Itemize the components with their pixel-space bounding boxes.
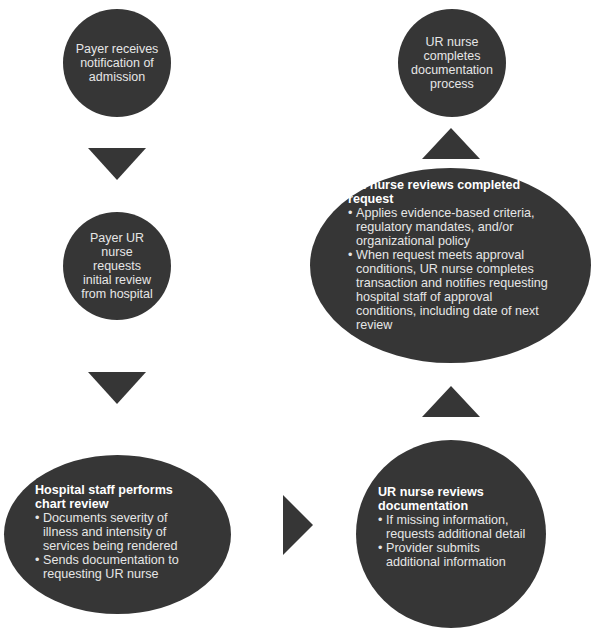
node-payer-ur-nurse-requests-review: Payer UR nurse requests initial review f… bbox=[63, 212, 171, 320]
text-line: admission bbox=[76, 70, 159, 84]
node-ur-nurse-reviews-documentation: UR nurse reviews documentation If missin… bbox=[356, 440, 546, 628]
text-line: from hospital bbox=[81, 287, 153, 301]
bullet-item: Documents severity of illness and intens… bbox=[35, 511, 200, 553]
bullet-item: Applies evidence-based criteria, regulat… bbox=[348, 206, 553, 248]
arrow-right-icon bbox=[283, 495, 313, 555]
node-title: Hospital staff performs chart review bbox=[35, 483, 200, 511]
text-line: Payer receives bbox=[76, 42, 159, 56]
text-line: nurse bbox=[81, 245, 153, 259]
text-line: Payer UR bbox=[81, 231, 153, 245]
arrow-up-icon bbox=[422, 386, 480, 417]
node-hospital-chart-review: Hospital staff performs chart review Doc… bbox=[4, 455, 231, 614]
node-ur-nurse-reviews-completed-request: UR nurse reviews completed request Appli… bbox=[310, 168, 591, 363]
text-line: completes bbox=[411, 49, 493, 63]
text-line: requests bbox=[81, 259, 153, 273]
text-line: documentation bbox=[411, 63, 493, 77]
arrow-down-icon bbox=[88, 372, 146, 404]
node-text: UR nurse completes documentation process bbox=[411, 35, 493, 91]
node-text: Hospital staff performs chart review Doc… bbox=[35, 483, 200, 581]
node-text: UR nurse reviews completed request Appli… bbox=[348, 178, 553, 332]
bullet-item: If missing information, requests additio… bbox=[378, 513, 528, 541]
bullet-item: Provider submits additional information bbox=[378, 541, 528, 569]
bullet-list: Documents severity of illness and intens… bbox=[35, 511, 200, 581]
arrow-up-icon bbox=[422, 128, 480, 159]
arrow-down-icon bbox=[88, 148, 146, 180]
node-text: Payer UR nurse requests initial review f… bbox=[81, 231, 153, 301]
node-title: UR nurse reviews completed request bbox=[348, 178, 553, 206]
text-line: UR nurse bbox=[411, 35, 493, 49]
node-ur-nurse-completes-documentation: UR nurse completes documentation process bbox=[398, 9, 506, 117]
text-line: process bbox=[411, 77, 493, 91]
node-payer-receives-notification: Payer receives notification of admission bbox=[63, 9, 171, 117]
node-text: Payer receives notification of admission bbox=[76, 42, 159, 84]
bullet-list: Applies evidence-based criteria, regulat… bbox=[348, 206, 553, 332]
bullet-list: If missing information, requests additio… bbox=[378, 513, 528, 569]
text-line: notification of bbox=[76, 56, 159, 70]
bullet-item: Sends documentation to requesting UR nur… bbox=[35, 553, 200, 581]
bullet-item: When request meets approval conditions, … bbox=[348, 248, 553, 332]
text-line: initial review bbox=[81, 273, 153, 287]
node-title: UR nurse reviews documentation bbox=[378, 485, 528, 513]
node-text: UR nurse reviews documentation If missin… bbox=[378, 485, 528, 569]
